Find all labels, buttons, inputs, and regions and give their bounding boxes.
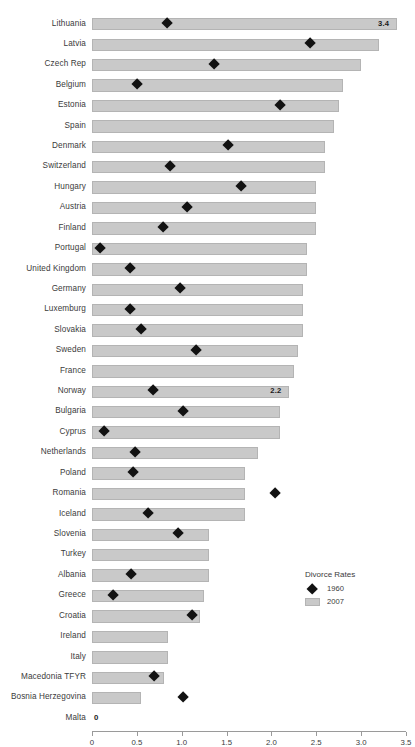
chart-row: Iceland [0,506,415,526]
bar-2007 [92,447,258,459]
chart-row: Belgium [0,77,415,97]
marker-1960 [269,487,281,499]
category-label: Switzerland [0,161,86,171]
category-label: Iceland [0,509,86,519]
category-label: United Kingdom [0,264,86,274]
category-label: Slovenia [0,529,86,539]
chart-row: Norway2.2 [0,383,415,403]
category-label: Slovakia [0,325,86,335]
chart-row: Germany [0,281,415,301]
category-label: Austria [0,202,86,212]
chart-row: Bosnia Herzegovina [0,689,415,709]
category-label: Macedonia TFYR [0,672,86,682]
category-label: Lithuania [0,19,86,29]
chart-row: Macedonia TFYR [0,669,415,689]
bar-2007 [92,386,289,398]
category-label: Finland [0,223,86,233]
legend-label: 1960 [327,584,344,593]
category-label: Romania [0,488,86,498]
bar-2007 [92,365,294,377]
chart-row: Italy [0,649,415,669]
bar-2007 [92,161,325,173]
legend-title: Divorce Rates [305,570,355,579]
category-label: Netherlands [0,447,86,457]
bar-2007 [92,181,316,193]
category-label: Hungary [0,182,86,192]
bar-2007 [92,59,361,71]
category-label: Poland [0,468,86,478]
chart-row: Czech Rep [0,56,415,76]
chart-row: Spain [0,118,415,138]
category-label: Croatia [0,611,86,621]
category-label: Bosnia Herzegovina [0,692,86,702]
bar-2007 [92,549,209,561]
category-label: Luxemburg [0,304,86,314]
chart-row: Slovenia [0,526,415,546]
x-axis-tick [92,732,93,736]
bar-2007 [92,529,209,541]
chart-row: Sweden [0,342,415,362]
bar-2007 [92,18,397,30]
bar-2007 [92,508,245,520]
bar-2007 [92,569,209,581]
x-axis-tick-label: 1.5 [221,738,232,747]
category-label: France [0,366,86,376]
chart-row: Malta0 [0,710,415,730]
category-label: Denmark [0,141,86,151]
chart-row: Slovakia [0,322,415,342]
bar-2007 [92,263,307,275]
chart-row: Turkey [0,546,415,566]
category-label: Italy [0,652,86,662]
bar-2007 [92,100,339,112]
bar-value-label: 0 [94,713,98,722]
bar-2007 [92,39,379,51]
x-axis-tick [271,732,272,736]
x-axis-tick-label: 3.0 [356,738,367,747]
x-axis-tick [137,732,138,736]
chart-row: Estonia [0,97,415,117]
x-axis-line [92,731,406,732]
chart-row: Hungary [0,179,415,199]
x-axis-tick-label: 2.5 [311,738,322,747]
bar-2007 [92,120,334,132]
bar-2007 [92,651,168,663]
bar-2007 [92,426,280,438]
category-label: Malta [0,713,86,723]
x-axis-tick-label: 1.0 [176,738,187,747]
category-label: Portugal [0,243,86,253]
chart-row: Latvia [0,36,415,56]
bar-2007 [92,284,303,296]
bar-value-label: 2.2 [270,386,281,395]
bar-2007 [92,692,141,704]
chart-row: France [0,363,415,383]
bar-2007 [92,631,168,643]
bar-2007 [92,324,303,336]
category-label: Belgium [0,80,86,90]
bar-2007 [92,304,303,316]
category-label: Cyprus [0,427,86,437]
chart-row: Ireland [0,628,415,648]
category-label: Latvia [0,39,86,49]
legend-label: 2007 [327,597,344,606]
category-label: Albania [0,570,86,580]
chart-row: Luxemburg [0,301,415,321]
chart-row: Netherlands [0,444,415,464]
chart-row: Romania [0,485,415,505]
x-axis-tick-label: 0 [90,738,94,747]
chart-row: Austria [0,199,415,219]
category-label: Bulgaria [0,406,86,416]
x-axis-tick [361,732,362,736]
category-label: Turkey [0,549,86,559]
x-axis-tick-label: 3.5 [401,738,412,747]
category-label: Norway [0,386,86,396]
marker-1960 [178,691,190,703]
category-label: Greece [0,590,86,600]
category-label: Sweden [0,345,86,355]
chart-row: United Kingdom [0,261,415,281]
chart-row: Switzerland [0,158,415,178]
category-label: Czech Rep [0,59,86,69]
chart-row: Portugal [0,240,415,260]
chart-row: Poland [0,465,415,485]
